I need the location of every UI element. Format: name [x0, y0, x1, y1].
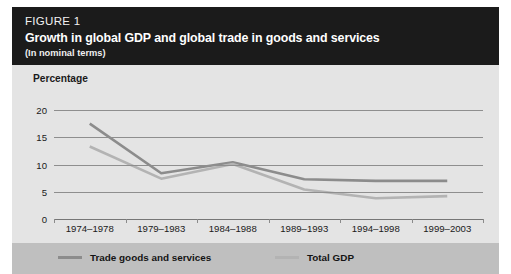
y-tick-label: 0: [42, 214, 47, 225]
legend-swatch-icon: [275, 256, 299, 259]
legend-item: Trade goods and services: [58, 252, 211, 263]
legend-label: Total GDP: [307, 252, 354, 263]
y-tick-label: 20: [36, 105, 47, 116]
y-tick-label: 10: [36, 159, 47, 170]
gridline-20: 20: [54, 110, 483, 111]
y-tick-label: 15: [36, 132, 47, 143]
plot-area: 05101520: [54, 110, 483, 219]
series-line: [90, 124, 448, 181]
x-axis-labels: 1974–19781979–19831984–19881989–19931994…: [54, 223, 483, 239]
series-line: [90, 147, 448, 199]
x-axis-label: 1999–2003: [423, 223, 471, 234]
figure-container: FIGURE 1 Growth in global GDP and global…: [0, 0, 511, 274]
x-axis-label: 1984–1988: [209, 223, 257, 234]
chart-legend: Trade goods and servicesTotal GDP: [12, 243, 499, 274]
figure-subtitle: (In nominal terms): [25, 47, 499, 59]
legend-label: Trade goods and services: [90, 252, 211, 263]
legend-item: Total GDP: [275, 252, 354, 263]
gridline-5: 5: [54, 192, 483, 193]
figure-header: FIGURE 1 Growth in global GDP and global…: [12, 7, 499, 65]
x-axis-label: 1979–1983: [137, 223, 185, 234]
figure-title: Growth in global GDP and global trade in…: [25, 30, 499, 47]
legend-swatch-icon: [58, 256, 82, 259]
y-axis-title: Percentage: [33, 73, 88, 84]
gridline-10: 10: [54, 165, 483, 166]
gridline-15: 15: [54, 137, 483, 138]
x-tick-mark: [483, 219, 484, 223]
figure-number: FIGURE 1: [25, 14, 499, 28]
x-axis-label: 1994–1998: [352, 223, 400, 234]
x-axis-label: 1989–1993: [280, 223, 328, 234]
x-axis-label: 1974–1978: [66, 223, 114, 234]
chart-panel: Percentage 05101520 1974–19781979–198319…: [12, 65, 499, 243]
y-tick-label: 5: [42, 186, 47, 197]
